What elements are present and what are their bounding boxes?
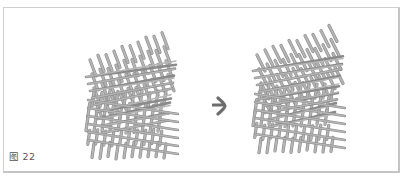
right-arrow-icon [212, 95, 228, 121]
lattice-structure-right [245, 14, 355, 170]
figure-caption: 图 22 [9, 149, 35, 163]
lattice-structure-left [78, 20, 188, 170]
